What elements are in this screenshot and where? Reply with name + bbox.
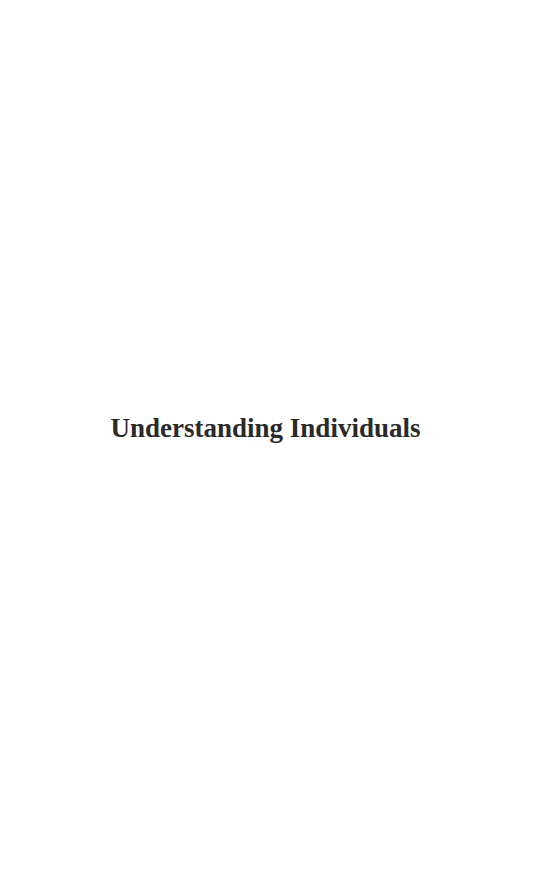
document-page: Understanding Individuals (0, 0, 541, 879)
page-title: Understanding Individuals (0, 412, 531, 444)
